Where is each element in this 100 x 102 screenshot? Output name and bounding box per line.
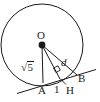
radical-operand: 5 <box>27 61 34 74</box>
center-dot-O <box>39 42 46 49</box>
label-point-b: B <box>78 73 85 84</box>
label-radius-sqrt5: √5 <box>21 61 34 74</box>
label-point-o: O <box>37 30 45 41</box>
segment-OA <box>42 45 43 83</box>
figure-canvas <box>0 0 100 102</box>
label-point-h: H <box>66 85 74 96</box>
geometry-figure: O A B H d 1 √5 <box>0 0 100 102</box>
label-half-chord: 1 <box>54 84 60 95</box>
label-distance-d: d <box>61 57 67 68</box>
segment-OH-perpendicular <box>42 45 60 79</box>
right-angle-marker <box>54 66 61 73</box>
label-point-a: A <box>38 85 46 96</box>
